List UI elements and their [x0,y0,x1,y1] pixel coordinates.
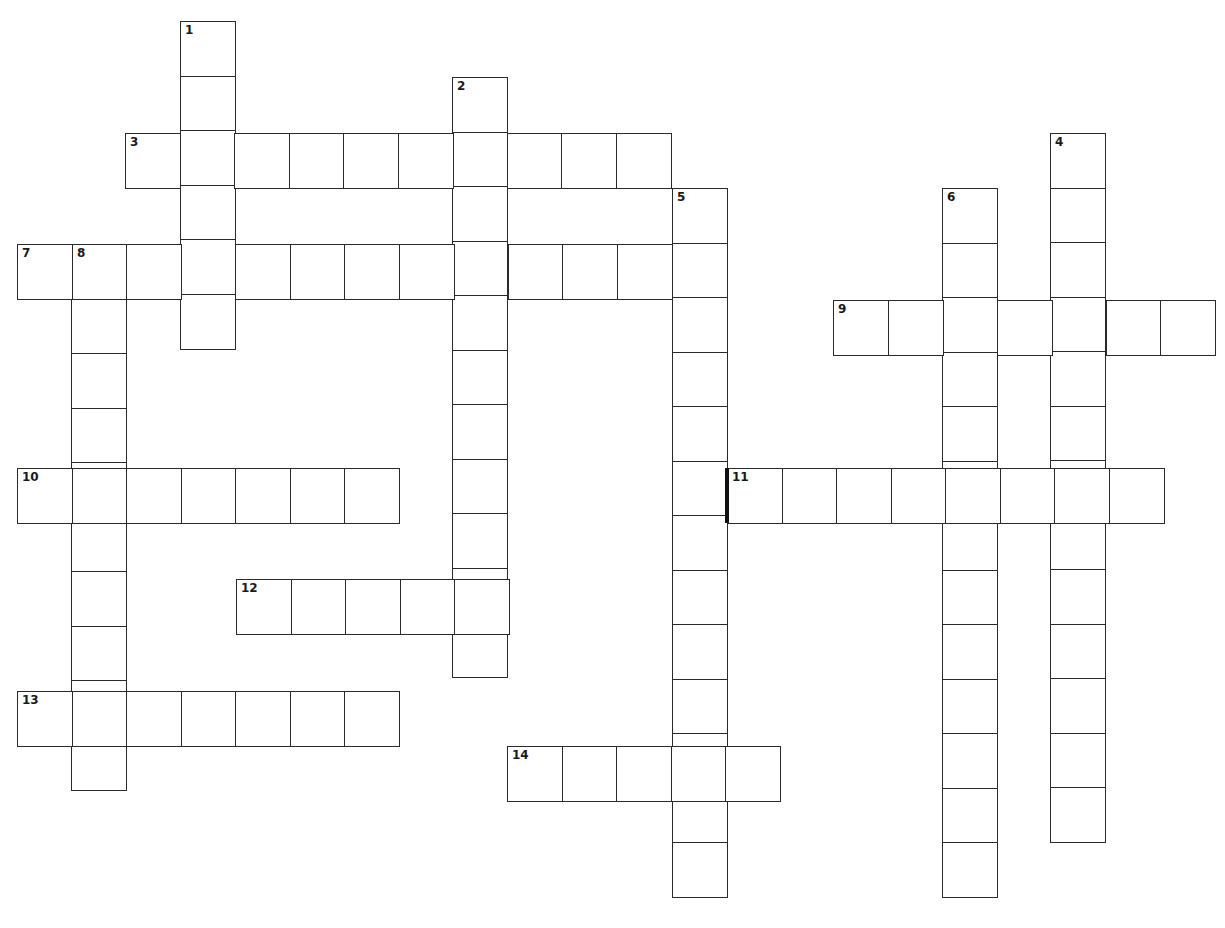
crossword-cell[interactable] [672,461,728,517]
crossword-cell[interactable] [290,468,346,524]
crossword-cell[interactable] [180,185,236,241]
crossword-cell[interactable]: 9 [833,300,889,356]
crossword-cell[interactable] [1109,468,1165,524]
crossword-cell[interactable] [942,679,998,735]
crossword-cell[interactable] [71,517,127,573]
crossword-cell[interactable] [1000,468,1056,524]
crossword-cell[interactable] [344,468,400,524]
crossword-cell[interactable] [180,76,236,132]
crossword-cell[interactable] [291,579,347,635]
crossword-cell[interactable] [180,294,236,350]
crossword-cell[interactable] [1050,733,1106,789]
crossword-cell[interactable] [71,299,127,355]
crossword-cell[interactable] [235,691,291,747]
crossword-cell[interactable] [672,679,728,735]
crossword-cell[interactable]: 12 [236,579,292,635]
crossword-cell[interactable] [452,186,508,242]
crossword-cell[interactable] [398,133,454,189]
crossword-cell[interactable] [71,626,127,682]
crossword-cell[interactable] [235,244,291,300]
crossword-cell[interactable] [344,244,400,300]
crossword-cell[interactable]: 11 [727,468,783,524]
crossword-cell[interactable] [1160,300,1216,356]
crossword-cell[interactable] [343,133,399,189]
crossword-cell[interactable] [942,842,998,898]
crossword-cell[interactable]: 14 [507,746,563,802]
crossword-cell[interactable] [672,515,728,571]
crossword-cell[interactable] [400,579,456,635]
crossword-cell[interactable] [452,404,508,460]
crossword-cell[interactable] [672,570,728,626]
crossword-cell[interactable] [72,691,128,747]
crossword-cell[interactable] [126,691,182,747]
crossword-cell[interactable] [942,733,998,789]
crossword-cell[interactable] [561,133,617,189]
crossword-cell[interactable] [672,297,728,353]
crossword-cell[interactable] [71,353,127,409]
crossword-cell[interactable] [891,468,947,524]
crossword-cell[interactable] [1106,300,1162,356]
crossword-cell[interactable] [782,468,838,524]
crossword-cell[interactable] [942,624,998,680]
crossword-cell[interactable]: 2 [452,77,508,133]
crossword-cell[interactable] [672,406,728,462]
crossword-cell[interactable] [180,130,236,186]
crossword-cell[interactable] [507,133,563,189]
crossword-cell[interactable] [616,746,672,802]
crossword-cell[interactable] [452,459,508,515]
crossword-cell[interactable] [1050,569,1106,625]
crossword-cell[interactable] [344,691,400,747]
crossword-cell[interactable] [1050,624,1106,680]
crossword-cell[interactable] [289,133,345,189]
crossword-cell[interactable] [72,468,128,524]
crossword-cell[interactable] [180,239,236,295]
crossword-cell[interactable] [672,243,728,299]
crossword-cell[interactable] [1050,406,1106,462]
crossword-cell[interactable] [942,297,998,353]
crossword-cell[interactable] [452,241,508,297]
crossword-cell[interactable] [452,513,508,569]
crossword-cell[interactable] [562,244,618,300]
crossword-cell[interactable] [508,244,564,300]
crossword-cell[interactable] [345,579,401,635]
crossword-cell[interactable] [997,300,1053,356]
crossword-cell[interactable] [452,132,508,188]
crossword-cell[interactable] [617,244,673,300]
crossword-cell[interactable] [836,468,892,524]
crossword-cell[interactable]: 5 [672,188,728,244]
crossword-cell[interactable] [942,352,998,408]
crossword-cell[interactable] [1050,188,1106,244]
crossword-cell[interactable] [1050,351,1106,407]
crossword-cell[interactable] [290,691,346,747]
crossword-cell[interactable]: 8 [72,244,128,300]
crossword-cell[interactable] [562,746,618,802]
crossword-cell[interactable] [672,842,728,898]
crossword-cell[interactable] [1050,242,1106,298]
crossword-cell[interactable] [235,468,291,524]
crossword-cell[interactable] [126,244,182,300]
crossword-cell[interactable] [942,243,998,299]
crossword-cell[interactable] [290,244,346,300]
crossword-cell[interactable]: 13 [17,691,73,747]
crossword-cell[interactable] [1050,678,1106,734]
crossword-cell[interactable] [126,468,182,524]
crossword-cell[interactable] [399,244,455,300]
crossword-cell[interactable]: 3 [125,133,181,189]
crossword-cell[interactable] [616,133,672,189]
crossword-cell[interactable] [672,352,728,408]
crossword-cell[interactable]: 1 [180,21,236,77]
crossword-cell[interactable] [942,406,998,462]
crossword-cell[interactable] [454,579,510,635]
crossword-cell[interactable] [1050,297,1106,353]
crossword-cell[interactable] [234,133,290,189]
crossword-cell[interactable] [71,571,127,627]
crossword-cell[interactable] [181,691,237,747]
crossword-cell[interactable] [181,468,237,524]
crossword-cell[interactable] [942,788,998,844]
crossword-cell[interactable] [1050,787,1106,843]
crossword-cell[interactable]: 10 [17,468,73,524]
crossword-cell[interactable] [945,468,1001,524]
crossword-cell[interactable] [671,746,727,802]
crossword-cell[interactable] [452,350,508,406]
crossword-cell[interactable] [1054,468,1110,524]
